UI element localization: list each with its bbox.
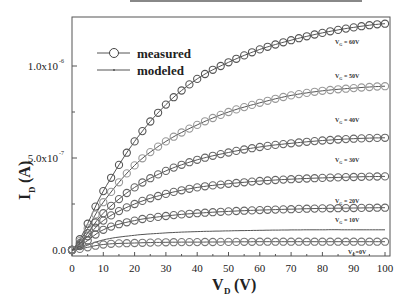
legend-measured-marker-icon (110, 49, 119, 58)
y-axis-ticks (72, 66, 77, 250)
xtick-label: 20 (129, 262, 141, 274)
vg-annotations: VG = 60VVG = 50VVG = 40VVG = 30VVG = 20V… (335, 39, 367, 257)
svg-text:(V): (V) (234, 276, 256, 294)
ytick-label-1e-6: 1.0x10 (28, 60, 59, 72)
vg-label: VG = 30V (335, 157, 360, 165)
ytick-exp-1e-6: -6 (59, 58, 64, 64)
legend-modeled-label: modeled (137, 63, 185, 78)
x-axis-label: V D (V) (212, 276, 256, 296)
xtick-label: 40 (192, 262, 204, 274)
y-axis-label: I D (A) (16, 161, 37, 200)
xtick-label: 90 (348, 262, 360, 274)
ytick-exp-5e-7: -7 (59, 150, 64, 156)
legend: measured modeled (97, 46, 192, 78)
ytick-label-0: 0.0 (52, 244, 66, 256)
xtick-label: 70 (286, 262, 298, 274)
legend-modeled-marker-icon (113, 69, 115, 71)
xtick-label: 60 (254, 262, 266, 274)
svg-text:I: I (16, 194, 33, 200)
xtick-label: 50 (223, 262, 235, 274)
svg-text:D: D (224, 286, 231, 296)
vg-label: VG = 60V (335, 39, 360, 47)
iv-chart: 0102030405060708090100 0.0 5.0x10 -7 1.0… (0, 0, 403, 308)
x-axis-ticks: 0102030405060708090100 (69, 252, 394, 274)
xtick-label: 100 (377, 262, 394, 274)
xtick-label: 30 (160, 262, 172, 274)
svg-text:V: V (212, 276, 224, 293)
vg-label: VG = 50V (335, 73, 360, 81)
modeled-curve (72, 138, 385, 250)
xtick-label: 80 (317, 262, 329, 274)
svg-text:D: D (27, 186, 37, 193)
xtick-label: 0 (69, 262, 75, 274)
svg-text:(A): (A) (16, 161, 34, 183)
vg-label: VG = 10V (335, 217, 360, 225)
xtick-label: 10 (98, 262, 110, 274)
vg-label: VG = 40V (335, 117, 360, 125)
legend-measured-label: measured (137, 46, 192, 61)
